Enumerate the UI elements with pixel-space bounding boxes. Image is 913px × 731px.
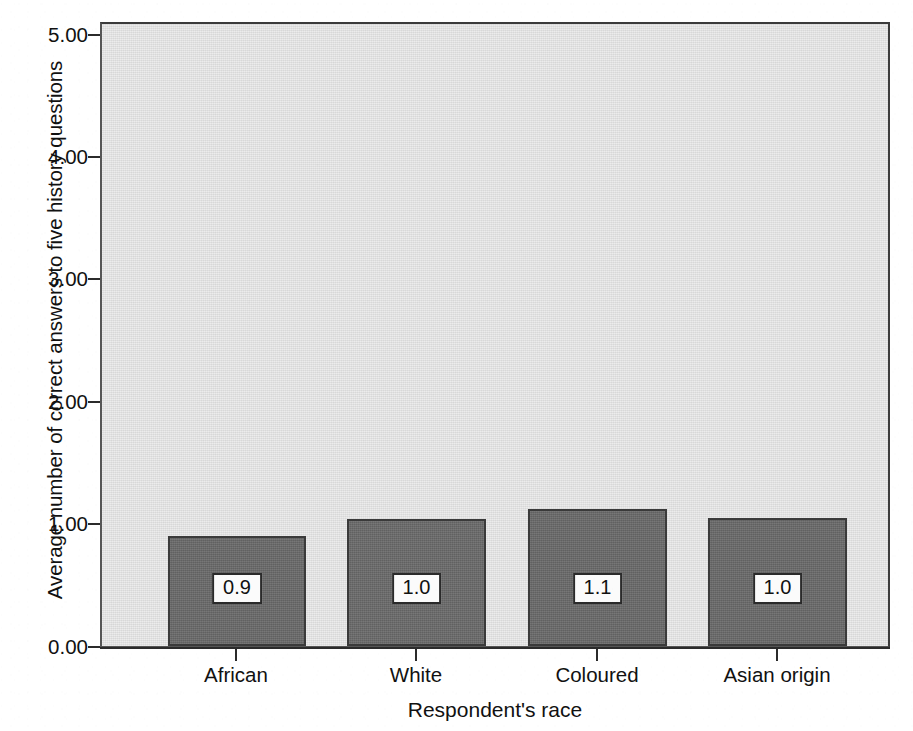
x-axis-title: Respondent's race [100, 698, 890, 722]
bar-white[interactable]: 1.0 [347, 519, 486, 646]
x-tick-mark-african [235, 649, 237, 661]
y-tick-label-1: 1.00 [16, 514, 88, 535]
y-tick-label-2: 2.00 [16, 392, 88, 413]
x-tick-mark-coloured [596, 649, 598, 661]
y-tick-label-4: 4.00 [16, 147, 88, 168]
bar-value-label-asian-origin: 1.0 [753, 573, 803, 604]
bar-coloured[interactable]: 1.1 [528, 509, 667, 646]
y-tick-label-5: 5.00 [16, 25, 88, 46]
y-tick-mark-0 [88, 646, 100, 648]
bar-value-label-white: 1.0 [392, 573, 442, 604]
bar-asian-origin[interactable]: 1.0 [708, 518, 847, 646]
y-tick-mark-3 [88, 278, 100, 280]
bar-african[interactable]: 0.9 [168, 536, 306, 646]
y-tick-label-0: 0.00 [16, 637, 88, 658]
x-tick-label-african: African [204, 664, 268, 687]
y-tick-mark-4 [88, 156, 100, 158]
x-tick-label-asian-origin: Asian origin [723, 664, 830, 687]
x-tick-label-coloured: Coloured [555, 664, 638, 687]
bar-chart: Average number of correct answers to fiv… [0, 0, 913, 731]
x-tick-mark-asian-origin [776, 649, 778, 661]
y-axis-tick-labels: 5.00 4.00 3.00 2.00 1.00 0.00 [10, 0, 88, 731]
y-tick-mark-2 [88, 401, 100, 403]
x-axis-line [100, 647, 890, 649]
bar-value-label-coloured: 1.1 [573, 573, 623, 604]
y-tick-mark-5 [88, 34, 100, 36]
x-tick-mark-white [415, 649, 417, 661]
x-tick-label-white: White [390, 664, 442, 687]
bar-value-label-african: 0.9 [212, 573, 262, 604]
plot-area: 0.9 1.0 1.1 1.0 [100, 22, 890, 648]
y-tick-label-3: 3.00 [16, 269, 88, 290]
y-tick-mark-1 [88, 523, 100, 525]
